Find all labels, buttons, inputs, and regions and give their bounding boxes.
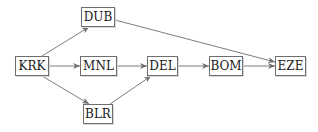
node-mnl: MNL (80, 56, 117, 76)
node-krk: KRK (15, 56, 49, 76)
node-blr: BLR (83, 104, 113, 124)
edge-krk-blr (42, 76, 89, 104)
node-dub: DUB (81, 7, 115, 27)
edge-dub-eze (115, 20, 275, 62)
node-bom: BOM (209, 56, 243, 76)
edge-blr-del (110, 76, 151, 104)
node-del: DEL (147, 56, 178, 76)
node-eze: EZE (275, 56, 306, 76)
edge-krk-dub (42, 27, 89, 56)
route-diagram: KRK DUB MNL BLR DEL BOM EZE (0, 0, 318, 132)
